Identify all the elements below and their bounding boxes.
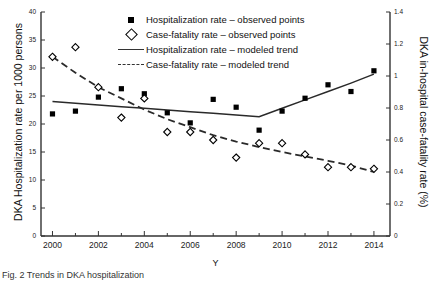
data-point-diamond [210, 136, 217, 143]
data-point-diamond [278, 140, 285, 147]
x-axis-tick-label: 2002 [81, 240, 115, 250]
data-point-square [73, 109, 78, 114]
figure-container: DKA Hospitalization rate per 1000 person… [0, 0, 432, 281]
legend-label: Hospitalization rate – modeled trend [146, 42, 298, 57]
data-point-diamond [72, 44, 79, 51]
y-axis-left-tick-label: 15 [22, 148, 36, 155]
data-point-diamond [118, 114, 125, 121]
y-axis-left-tick-label: 25 [22, 92, 36, 99]
y-axis-right-tick-label: 1.4 [394, 8, 410, 15]
data-point-square [50, 111, 55, 116]
solid-line-icon [116, 42, 146, 57]
legend-item-hospitalization-trend: Hospitalization rate – modeled trend [116, 42, 346, 57]
data-point-square [279, 109, 284, 114]
legend-item-case-fatality-trend: Case-fatality rate – modeled trend [116, 57, 346, 72]
y-axis-right-tick-label: 0 [394, 232, 410, 239]
data-point-square [371, 68, 376, 73]
y-axis-left-tick-label: 40 [22, 8, 36, 15]
y-axis-right-tick-label: 0.6 [394, 136, 410, 143]
x-axis-tick-label: 2012 [311, 240, 345, 250]
data-point-diamond [95, 84, 102, 91]
y-axis-left-tick-label: 10 [22, 176, 36, 183]
data-point-square [302, 96, 307, 101]
x-axis-tick-label: 2000 [35, 240, 69, 250]
legend-label: Case-fatality rate – observed points [146, 27, 295, 42]
x-axis-tick-label: 2004 [127, 240, 161, 250]
data-point-square [211, 97, 216, 102]
x-axis-tick-label: 2008 [219, 240, 253, 250]
data-point-square [96, 95, 101, 100]
y-axis-right-tick-label: 0.4 [394, 168, 410, 175]
case-fatality-trend-line [52, 57, 373, 172]
data-point-diamond [164, 128, 171, 135]
hospitalization-data-points [50, 68, 377, 133]
x-axis-ticks [52, 231, 373, 236]
figure-caption: Fig. 2 Trends in DKA hospitalization [2, 270, 144, 281]
filled-square-icon [116, 12, 146, 27]
legend-label: Case-fatality rate – modeled trend [146, 57, 289, 72]
data-point-square [234, 105, 239, 110]
legend-item-hospitalization-points: Hospitalization rate – observed points [116, 12, 346, 27]
dashed-line-icon [116, 57, 146, 72]
y-axis-left-tick-label: 0 [22, 232, 36, 239]
y-axis-left-tick-label: 30 [22, 64, 36, 71]
data-point-square [165, 110, 170, 115]
legend-label: Hospitalization rate – observed points [146, 12, 304, 27]
data-point-square [257, 128, 262, 133]
data-point-diamond [347, 164, 354, 171]
data-point-diamond [324, 164, 331, 171]
data-point-square [325, 82, 330, 87]
x-axis-tick-label: 2014 [357, 240, 391, 250]
y-axis-left-tick-label: 20 [22, 120, 36, 127]
data-point-square [348, 89, 353, 94]
y-axis-left-tick-label: 35 [22, 36, 36, 43]
data-point-square [188, 120, 193, 125]
y-axis-right-tick-label: 0.8 [394, 104, 410, 111]
legend-item-case-fatality-points: Case-fatality rate – observed points [116, 27, 346, 42]
data-point-square [119, 86, 124, 91]
y-axis-left-tick-label: 5 [22, 204, 36, 211]
y-axis-right-tick-label: 1.2 [394, 40, 410, 47]
data-point-diamond [233, 154, 240, 161]
chart-legend: Hospitalization rate – observed points C… [116, 12, 346, 72]
y-axis-right-tick-label: 1 [394, 72, 410, 79]
x-axis-tick-label: 2006 [173, 240, 207, 250]
y-axis-right-tick-label: 0.2 [394, 200, 410, 207]
data-point-diamond [187, 128, 194, 135]
x-axis-tick-label: 2010 [265, 240, 299, 250]
open-diamond-icon [116, 27, 146, 42]
